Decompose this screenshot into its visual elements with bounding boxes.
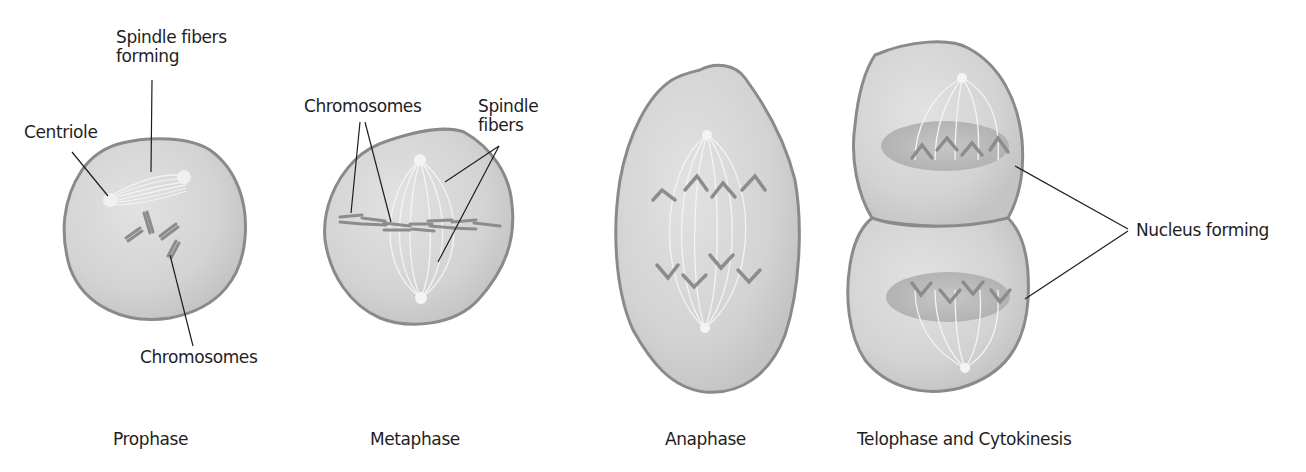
label-prophase-chromosomes: Chromosomes	[140, 348, 257, 367]
prophase-cell	[64, 80, 245, 346]
anaphase-cell	[616, 65, 800, 392]
label-prophase-spindle-forming: Spindle fibers forming	[116, 28, 227, 66]
label-metaphase-chromosomes: Chromosomes	[304, 97, 421, 116]
leader-nucleus-bottom	[1025, 231, 1128, 299]
caption-telophase: Telophase and Cytokinesis	[857, 430, 1071, 449]
label-line: Spindle	[478, 97, 538, 116]
mitosis-diagram	[0, 0, 1306, 472]
metaphase-cell	[325, 122, 513, 324]
caption-prophase: Prophase	[113, 430, 188, 449]
label-line: fibers	[478, 116, 538, 135]
nucleus-top	[881, 121, 1009, 171]
caption-metaphase: Metaphase	[370, 430, 460, 449]
telophase-cells	[848, 42, 1128, 392]
label-line: forming	[116, 47, 227, 66]
label-centriole: Centriole	[24, 123, 97, 142]
centriole-left	[103, 193, 117, 207]
label-nucleus-forming: Nucleus forming	[1136, 221, 1269, 240]
label-line: Spindle fibers	[116, 28, 227, 47]
label-metaphase-spindle-fibers: Spindle fibers	[478, 97, 538, 135]
caption-anaphase: Anaphase	[665, 430, 746, 449]
leader-nucleus-top	[1015, 166, 1128, 229]
centriole-right	[177, 170, 191, 184]
